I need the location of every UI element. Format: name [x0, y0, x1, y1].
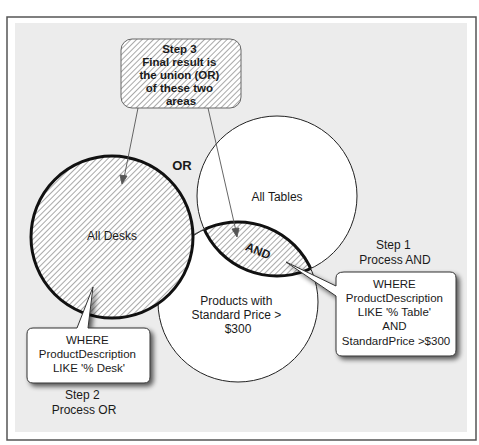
desks-label: All Desks	[87, 229, 137, 243]
step3-box: Step 3 Final result is the union (OR) of…	[121, 39, 241, 108]
or-label: OR	[172, 158, 192, 173]
tables-label: All Tables	[251, 190, 302, 204]
venn-diagram: Step 3 Final result is the union (OR) of…	[0, 0, 479, 445]
